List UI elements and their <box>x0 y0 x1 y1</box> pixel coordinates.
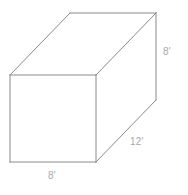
edge-connector-top-right <box>96 13 156 75</box>
prism-figure: 8' 12' 8' <box>0 0 188 195</box>
edge-connector-bottom-right <box>96 100 156 162</box>
prism-front-face <box>10 75 96 162</box>
dimension-label-width: 8' <box>48 170 56 182</box>
dimension-label-height: 8' <box>163 46 171 58</box>
edge-connector-top-left <box>10 13 70 75</box>
dimension-label-depth: 12' <box>130 136 144 148</box>
prism-drawing <box>0 0 188 195</box>
